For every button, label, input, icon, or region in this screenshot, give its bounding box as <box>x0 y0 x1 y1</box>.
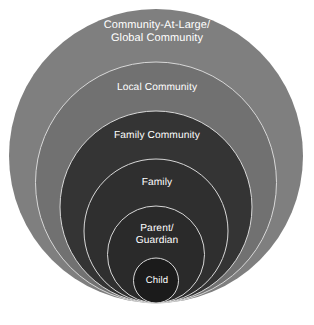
nested-circles-diagram: Community-At-Large/ Global Community Loc… <box>0 0 314 325</box>
circle-child <box>134 258 179 303</box>
diagram-canvas <box>0 0 314 325</box>
